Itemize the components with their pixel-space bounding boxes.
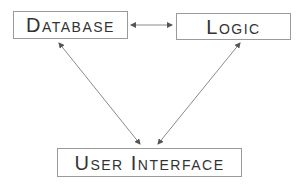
logic-label: Logic	[206, 17, 260, 37]
logic-node: Logic	[176, 13, 291, 40]
database-node: Database	[13, 11, 128, 39]
arrow-database-ui	[59, 43, 140, 144]
arrow-logic-ui	[158, 43, 240, 144]
user-interface-node: User Interface	[57, 148, 242, 177]
diagram-canvas: Database Logic User Interface	[0, 0, 300, 186]
user-interface-label: User Interface	[74, 153, 224, 173]
database-label: Database	[26, 15, 115, 35]
